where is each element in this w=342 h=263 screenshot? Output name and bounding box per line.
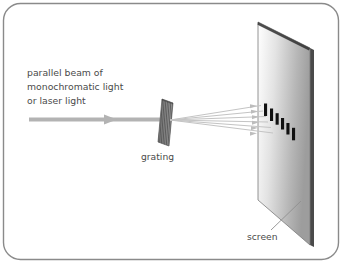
screen-thickness-edge: [310, 48, 314, 247]
fringe-bar: [286, 123, 289, 135]
grating-label: grating: [141, 151, 174, 162]
diffraction-grating-figure: parallel beam of monochromatic light or …: [0, 0, 342, 263]
diagram-canvas: parallel beam of monochromatic light or …: [0, 0, 342, 263]
beam-label-line2: monochromatic light: [27, 81, 124, 92]
beam-label-line1: parallel beam of: [27, 67, 104, 78]
fringe-bar: [264, 104, 267, 117]
fringe-bar: [292, 128, 295, 141]
fringe-bar: [281, 118, 284, 130]
fringe-bar: [270, 109, 273, 122]
beam-label-line3: or laser light: [27, 95, 86, 106]
screen-label: screen: [247, 231, 278, 242]
fringe-bar: [276, 113, 279, 125]
